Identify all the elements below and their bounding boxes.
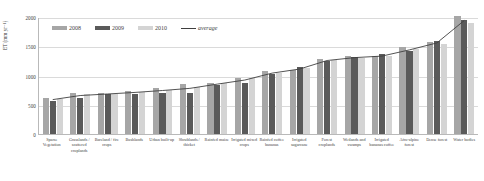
legend-item-average[interactable]: average [181,25,217,31]
legend-swatch-2010 [138,26,153,30]
x-axis-tick-label: Forest croplands [313,137,341,153]
bar-2009 [434,41,440,134]
bar-group [341,18,368,134]
bar-2009 [132,94,138,134]
x-axis-tick-label: Irrigated bananas coffee [368,137,396,153]
bar-group [451,18,478,134]
x-axis-tick-label: Bareland / fire crops [93,137,121,153]
bar-2008 [345,56,351,134]
x-axis-tick-label: Rainfed maize [203,137,231,153]
bar-2010 [358,58,364,134]
legend-line-marker [181,28,196,29]
bar-group [368,18,395,134]
x-axis-tick-label: Rainfed coffee bananas [258,137,286,153]
legend-swatch-2009 [95,26,110,30]
bar-group [94,18,121,134]
bar-2009 [214,85,220,134]
bar-2008 [317,59,323,134]
bar-2008 [43,98,49,134]
legend-swatch-2008 [52,26,67,30]
bar-2010 [249,78,255,134]
bar-group [259,18,286,134]
bar-2010 [194,87,200,134]
bar-2010 [303,68,309,134]
chart-legend: 200820092010average [52,25,217,31]
bar-group [204,18,231,134]
bar-2009 [50,101,56,134]
x-axis-tick-label: Sparse Vegetation [38,137,66,153]
x-axis-labels: Sparse VegetationGrasslands / scattered … [38,137,478,153]
bar-group [423,18,450,134]
x-axis-tick-label: Grasslands / scattered croplands [66,137,94,153]
bar-2010 [276,73,282,134]
bar-group [313,18,340,134]
bar-group [149,18,176,134]
bar-2010 [84,94,90,134]
x-axis-tick-label: Irrigated sugarcane [286,137,314,153]
x-axis-tick-label: Shrublands / thicket [176,137,204,153]
x-axis-tick-label: Bushlands [121,137,149,153]
bar-group [66,18,93,134]
bar-2010 [111,94,117,134]
bar-2009 [187,93,193,134]
bar-group [121,18,148,134]
bar-2008 [70,93,76,134]
legend-label: 2010 [155,25,167,31]
bar-2009 [297,67,303,134]
bar-2008 [399,47,405,134]
bar-2008 [153,88,159,134]
legend-label: average [198,25,217,31]
bar-group [231,18,258,134]
bar-2010 [386,56,392,134]
bar-2009 [379,54,385,134]
bar-2009 [351,57,357,134]
legend-item-2009[interactable]: 2009 [95,25,124,31]
bar-2008 [372,56,378,134]
bar-2009 [242,83,248,134]
bar-2008 [454,16,460,134]
y-axis-tick-label: 1500 [25,44,39,50]
bars-layer [39,18,478,134]
x-axis-tick-label: Irrigated mixed crops [231,137,259,153]
bar-2008 [125,91,131,134]
bar-2010 [57,99,63,134]
x-axis-tick-label: Wetlands and swamps [341,137,369,153]
y-axis-tick-label: 2000 [25,15,39,21]
bar-2008 [207,83,213,134]
bar-2010 [441,44,447,134]
bar-group [39,18,66,134]
bar-2009 [77,98,83,134]
gridline [39,135,478,136]
bar-2008 [98,93,104,134]
y-axis-title: ET (mm yr⁻¹) [2,21,8,50]
bar-group [176,18,203,134]
y-axis-tick-label: 1000 [25,74,39,80]
bar-2010 [413,49,419,134]
plot-area: 0500100015002000 [38,18,478,135]
bar-2009 [324,61,330,134]
y-axis-tick-label: 500 [28,103,39,109]
bar-2009 [105,94,111,134]
bar-group [286,18,313,134]
bar-2009 [159,93,165,134]
x-axis-tick-label: Urban built-up [148,137,176,153]
legend-label: 2009 [112,25,124,31]
x-axis-tick-label: Afro-alpine forest [396,137,424,153]
x-axis-tick-label: Water bodies [451,137,479,153]
bar-2009 [461,20,467,134]
bar-chart-figure: ET (mm yr⁻¹) 0500100015002000 2008200920… [0,0,484,181]
bar-2008 [290,70,296,134]
bar-2010 [221,83,227,134]
bar-2009 [269,74,275,134]
bar-2010 [166,90,172,134]
x-axis-tick-label: Dense forest [423,137,451,153]
legend-item-2010[interactable]: 2010 [138,25,167,31]
bar-2010 [331,60,337,134]
bar-2008 [180,84,186,134]
bar-2008 [235,78,241,134]
bar-2009 [406,51,412,134]
legend-item-2008[interactable]: 2008 [52,25,81,31]
legend-label: 2008 [69,25,81,31]
bar-2008 [262,71,268,134]
bar-2008 [427,42,433,134]
